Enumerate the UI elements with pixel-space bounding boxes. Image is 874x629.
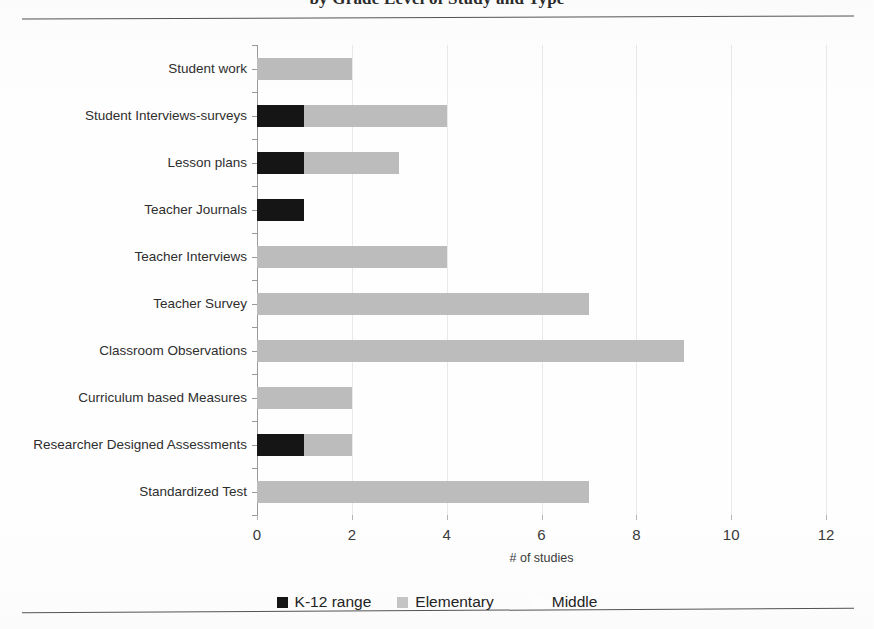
- bar-segment-elementary[interactable]: [304, 434, 351, 456]
- bar-chart: Student workStudent Interviews-surveysLe…: [0, 40, 874, 600]
- legend-swatch-icon: [534, 597, 545, 608]
- legend-label: K-12 range: [295, 593, 372, 611]
- bar-segment-elementary[interactable]: [257, 340, 684, 362]
- x-axis-tick: [257, 515, 258, 520]
- y-axis-tick-minor: [252, 92, 258, 93]
- category-label: Teacher Interviews: [7, 250, 247, 264]
- bar-segment-elementary[interactable]: [304, 105, 446, 127]
- y-axis-tick-minor: [252, 233, 258, 234]
- x-axis-tick-label: 8: [632, 526, 640, 543]
- x-axis-tick: [636, 515, 637, 520]
- y-axis-tick-minor: [252, 45, 258, 46]
- stacked-bar[interactable]: [257, 340, 684, 362]
- x-axis-tick-label: 6: [537, 526, 545, 543]
- x-axis-tick-label: 12: [818, 526, 835, 543]
- x-axis-tick: [826, 515, 827, 520]
- plot-area: [257, 45, 826, 515]
- stacked-bar[interactable]: [257, 434, 352, 456]
- legend-swatch-icon: [397, 597, 408, 608]
- bar-row[interactable]: [257, 199, 826, 221]
- stacked-bar[interactable]: [257, 105, 447, 127]
- bar-segment-elementary[interactable]: [304, 152, 399, 174]
- stacked-bar[interactable]: [257, 481, 589, 503]
- legend-swatch-icon: [277, 597, 288, 608]
- category-label: Teacher Journals: [7, 203, 247, 217]
- y-axis-tick-minor: [252, 327, 258, 328]
- y-axis-tick-minor: [252, 139, 258, 140]
- page-rule-top: [22, 15, 854, 19]
- y-axis-tick-minor: [252, 186, 258, 187]
- bar-row[interactable]: [257, 246, 826, 268]
- legend-label: Middle: [552, 593, 598, 611]
- stacked-bar[interactable]: [257, 152, 399, 174]
- y-axis-tick-minor: [252, 374, 258, 375]
- stacked-bar[interactable]: [257, 199, 304, 221]
- stacked-bar[interactable]: [257, 246, 447, 268]
- bar-row[interactable]: [257, 481, 826, 503]
- bar-row[interactable]: [257, 58, 826, 80]
- bar-segment-elementary[interactable]: [257, 293, 589, 315]
- y-axis-tick-minor: [252, 468, 258, 469]
- x-axis-tick: [542, 515, 543, 520]
- bar-row[interactable]: [257, 293, 826, 315]
- bar-row[interactable]: [257, 340, 826, 362]
- x-axis-tick-label: 10: [723, 526, 740, 543]
- category-label: Classroom Observations: [7, 344, 247, 358]
- bar-segment-k-12-range[interactable]: [257, 434, 304, 456]
- bar-row[interactable]: [257, 434, 826, 456]
- bar-segment-elementary[interactable]: [257, 387, 352, 409]
- x-axis-tick: [447, 515, 448, 520]
- bar-row[interactable]: [257, 387, 826, 409]
- x-axis-title: # of studies: [257, 551, 826, 565]
- bar-row[interactable]: [257, 152, 826, 174]
- category-label: Curriculum based Measures: [7, 391, 247, 405]
- category-label: Standardized Test: [7, 485, 247, 499]
- x-axis-tick-label: 2: [348, 526, 356, 543]
- stacked-bar[interactable]: [257, 293, 589, 315]
- bar-segment-elementary[interactable]: [257, 246, 447, 268]
- category-label: Lesson plans: [7, 156, 247, 170]
- category-label: Researcher Designed Assessments: [7, 438, 247, 452]
- legend-label: Elementary: [415, 593, 493, 611]
- category-label: Student Interviews-surveys: [7, 109, 247, 123]
- legend-item-k-12-range[interactable]: K-12 range: [277, 593, 372, 611]
- figure-title: by Grade Level of Study and Type: [0, 0, 874, 9]
- category-label: Student work: [7, 62, 247, 76]
- y-axis-tick-minor: [252, 280, 258, 281]
- stacked-bar[interactable]: [257, 58, 352, 80]
- category-label: Teacher Survey: [7, 297, 247, 311]
- bar-row[interactable]: [257, 105, 826, 127]
- x-axis-tick-label: 4: [442, 526, 450, 543]
- legend-item-elementary[interactable]: Elementary: [397, 593, 493, 611]
- bar-segment-k-12-range[interactable]: [257, 199, 304, 221]
- bar-segment-elementary[interactable]: [257, 58, 352, 80]
- stacked-bar[interactable]: [257, 387, 352, 409]
- bar-segment-k-12-range[interactable]: [257, 105, 304, 127]
- bar-segment-k-12-range[interactable]: [257, 152, 304, 174]
- figure-page: by Grade Level of Study and Type Student…: [0, 0, 874, 629]
- gridline: [826, 45, 827, 515]
- x-axis-tick-label: 0: [253, 526, 261, 543]
- x-axis-tick: [352, 515, 353, 520]
- x-axis-tick: [731, 515, 732, 520]
- bar-segment-elementary[interactable]: [257, 481, 589, 503]
- chart-legend: K-12 rangeElementaryMiddle: [0, 593, 874, 611]
- legend-item-middle[interactable]: Middle: [534, 593, 598, 611]
- y-axis-tick-minor: [252, 421, 258, 422]
